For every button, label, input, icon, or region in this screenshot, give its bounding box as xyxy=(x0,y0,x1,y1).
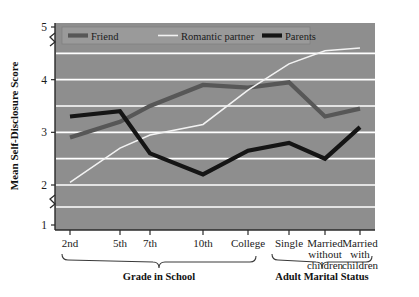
chart-figure: 54321 2nd5th7th10thCollegeSingleMarriedw… xyxy=(0,0,419,297)
y-axis-tick-label: 4 xyxy=(41,74,47,86)
y-axis-title: Mean Self-Disclosure Score xyxy=(8,62,20,191)
group-label: Adult Marital Status xyxy=(275,271,368,282)
x-axis-tick-label: 5th xyxy=(113,237,128,249)
y-axis-tick-label: 2 xyxy=(41,179,47,191)
y-axis-tick-label: 1 xyxy=(41,219,47,231)
x-axis-tick-label: College xyxy=(231,237,265,249)
group-label: Grade in School xyxy=(123,271,195,282)
self-disclosure-line-chart: 54321 2nd5th7th10thCollegeSingleMarriedw… xyxy=(0,0,419,297)
legend-label-friend: Friend xyxy=(91,31,119,42)
x-axis-tick-label: 10th xyxy=(193,237,213,249)
legend-label-romantic-partner: Romantic partner xyxy=(181,31,255,42)
x-axis-tick-label: 7th xyxy=(143,237,158,249)
x-axis-tick-label: children xyxy=(342,259,379,271)
x-axis-tick-label: children xyxy=(307,259,344,271)
y-axis-tick-label: 5 xyxy=(41,21,47,33)
legend-label-parents: Parents xyxy=(285,31,316,42)
x-axis-tick-label: 2nd xyxy=(62,237,79,249)
y-axis-tick-label: 3 xyxy=(41,126,47,138)
x-axis-tick-label: Single xyxy=(275,237,303,249)
